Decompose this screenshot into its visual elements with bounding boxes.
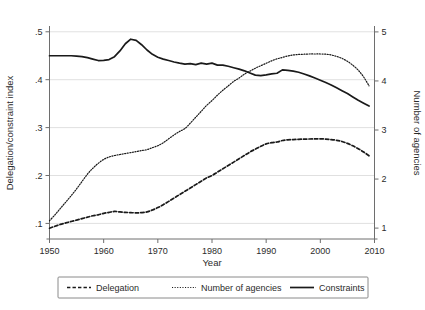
x-axis-title: Year <box>202 257 221 268</box>
line-chart: 1950196019701980199020002010 .1.2.3.4.5 … <box>0 0 425 310</box>
x-tick-label-1980: 1980 <box>202 246 222 256</box>
x-tick-label-1990: 1990 <box>256 246 276 256</box>
legend-label-constraints: Constraints <box>319 283 365 293</box>
y-axis-title-right: Number of agencies <box>412 90 423 175</box>
y-right-tick-label-2: 3 <box>382 125 387 135</box>
legend-label-number-of-agencies: Number of agencies <box>201 283 282 293</box>
y-right-tick-label-4: 5 <box>382 27 387 37</box>
legend-items: DelegationNumber of agenciesConstraints <box>67 283 365 293</box>
x-tick-label-1970: 1970 <box>148 246 168 256</box>
chart-figure: 1950196019701980199020002010 .1.2.3.4.5 … <box>0 0 425 310</box>
y-right-tick-label-1: 2 <box>382 174 387 184</box>
y-right-tick-label-0: 1 <box>382 223 387 233</box>
y-left-tick-label-3: .4 <box>35 75 43 85</box>
y-left-tick-label-4: .5 <box>35 27 43 37</box>
chart-legend: DelegationNumber of agenciesConstraints <box>58 277 368 298</box>
x-tick-label-2010: 2010 <box>364 246 384 256</box>
x-tick-label-1950: 1950 <box>39 246 59 256</box>
legend-label-delegation: Delegation <box>96 283 139 293</box>
y-left-tick-label-2: .3 <box>35 123 43 133</box>
x-tick-label-2000: 2000 <box>310 246 330 256</box>
x-tick-label-1960: 1960 <box>94 246 114 256</box>
y-left-tick-label-1: .2 <box>35 171 43 181</box>
y-left-tick-label-0: .1 <box>35 219 43 229</box>
y-right-tick-label-3: 4 <box>382 76 387 86</box>
y-axis-title-left: Delegation/constraint index <box>4 75 15 190</box>
